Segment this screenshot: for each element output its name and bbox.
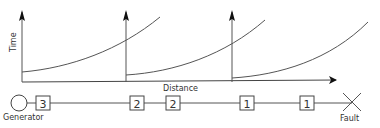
curve-relay-3	[22, 17, 160, 72]
generator-label: Generator	[3, 113, 44, 122]
coordination-diagram: Time Distance Generator 3 2 2 1 1 Fault	[0, 0, 380, 128]
y-axis-label: Time	[9, 32, 18, 53]
relay-2a: 2	[130, 96, 144, 111]
svg-text:2: 2	[134, 98, 141, 111]
svg-text:1: 1	[244, 98, 251, 111]
relay-1b: 1	[300, 96, 314, 111]
relay-1a: 1	[240, 96, 254, 111]
x-axis-label: Distance	[163, 84, 198, 93]
time-axis-2	[123, 10, 129, 82]
time-axis-1	[19, 10, 25, 82]
relay-2b: 2	[166, 96, 180, 111]
relay-3: 3	[36, 96, 50, 111]
curve-relay-2	[126, 20, 265, 75]
svg-text:1: 1	[304, 98, 311, 111]
fault-icon	[343, 93, 361, 111]
svg-text:2: 2	[170, 98, 177, 111]
generator-icon	[11, 95, 27, 111]
fault-label: Fault	[340, 114, 359, 123]
svg-text:3: 3	[40, 98, 47, 111]
time-axis-3	[229, 10, 235, 82]
distance-axis	[22, 80, 336, 82]
